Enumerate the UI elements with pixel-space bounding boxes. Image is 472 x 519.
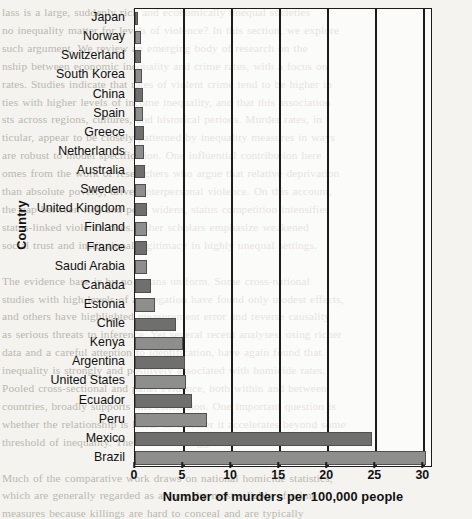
bar-row — [135, 315, 431, 334]
bar-greece — [135, 126, 144, 140]
bar-row — [135, 296, 431, 315]
bar-row — [135, 353, 431, 372]
bar-row — [135, 66, 431, 85]
y-tick-chile: Chile — [97, 314, 125, 333]
y-tick-mexico: Mexico — [86, 429, 125, 448]
bar-row — [135, 449, 431, 468]
bar-row — [135, 392, 431, 411]
bar-south-korea — [135, 69, 142, 83]
x-tick-20: 20 — [319, 468, 333, 482]
bar-united-kingdom — [135, 203, 147, 217]
bar-estonia — [135, 298, 155, 312]
x-tick-25: 25 — [367, 468, 381, 482]
bar-series — [135, 9, 431, 466]
bar-row — [135, 162, 431, 181]
bar-finland — [135, 222, 147, 236]
bar-united-states — [135, 375, 186, 389]
bar-ecuador — [135, 394, 192, 408]
y-tick-united-states: United States — [51, 371, 125, 390]
x-axis-title: Number of murders per 100,000 people — [134, 489, 432, 504]
bar-brazil — [135, 451, 426, 465]
bar-sweden — [135, 184, 146, 198]
chart-page: lass is a large, suddenly rich and econo… — [0, 0, 472, 519]
y-tick-south-korea: South Korea — [56, 65, 125, 84]
y-tick-saudi-arabia: Saudi Arabia — [55, 257, 125, 276]
bar-row — [135, 219, 431, 238]
bar-china — [135, 88, 143, 102]
bar-row — [135, 47, 431, 66]
bar-row — [135, 411, 431, 430]
bar-row — [135, 9, 431, 28]
bar-mexico — [135, 432, 372, 446]
bar-canada — [135, 279, 151, 293]
bar-norway — [135, 31, 141, 45]
y-tick-sweden: Sweden — [80, 180, 125, 199]
bar-france — [135, 241, 147, 255]
bar-row — [135, 181, 431, 200]
y-tick-france: France — [86, 238, 125, 257]
bar-row — [135, 143, 431, 162]
bar-row — [135, 430, 431, 449]
y-tick-argentina: Argentina — [72, 352, 125, 371]
bar-spain — [135, 107, 143, 121]
bar-row — [135, 239, 431, 258]
bar-chart-figure: Country JapanNorwaySwitzerlandSouth Kore… — [0, 0, 472, 519]
y-tick-netherlands: Netherlands — [58, 142, 125, 161]
bar-argentina — [135, 356, 185, 370]
y-tick-ecuador: Ecuador — [79, 391, 125, 410]
bar-peru — [135, 413, 207, 427]
bar-row — [135, 334, 431, 353]
y-tick-peru: Peru — [99, 410, 125, 429]
y-tick-norway: Norway — [83, 27, 125, 46]
y-tick-china: China — [93, 85, 125, 104]
bar-row — [135, 124, 431, 143]
x-axis-tick-labels: 051015202530 — [134, 468, 432, 486]
y-tick-japan: Japan — [91, 8, 125, 27]
y-tick-kenya: Kenya — [90, 333, 125, 352]
bar-row — [135, 258, 431, 277]
x-tick-5: 5 — [179, 468, 186, 482]
bar-australia — [135, 165, 145, 179]
bar-japan — [135, 12, 138, 26]
x-tick-15: 15 — [271, 468, 285, 482]
bar-netherlands — [135, 145, 144, 159]
bar-row — [135, 277, 431, 296]
y-tick-switzerland: Switzerland — [61, 46, 125, 65]
bar-saudi-arabia — [135, 260, 147, 274]
x-tick-10: 10 — [223, 468, 237, 482]
y-tick-australia: Australia — [77, 161, 125, 180]
x-tick-0: 0 — [131, 468, 138, 482]
y-tick-greece: Greece — [84, 123, 125, 142]
bar-chile — [135, 318, 176, 332]
x-tick-30: 30 — [415, 468, 429, 482]
y-tick-canada: Canada — [82, 276, 125, 295]
y-tick-spain: Spain — [93, 104, 125, 123]
y-tick-united-kingdom: United Kingdom — [37, 199, 125, 218]
bar-row — [135, 28, 431, 47]
bar-switzerland — [135, 50, 141, 64]
y-axis-tick-labels: JapanNorwaySwitzerlandSouth KoreaChinaSp… — [0, 8, 130, 467]
y-tick-finland: Finland — [84, 218, 125, 237]
y-tick-estonia: Estonia — [84, 295, 125, 314]
bar-kenya — [135, 337, 183, 351]
y-tick-brazil: Brazil — [94, 448, 125, 467]
plot-area — [134, 8, 432, 467]
bar-row — [135, 372, 431, 391]
bar-row — [135, 86, 431, 105]
bar-row — [135, 200, 431, 219]
bar-row — [135, 105, 431, 124]
